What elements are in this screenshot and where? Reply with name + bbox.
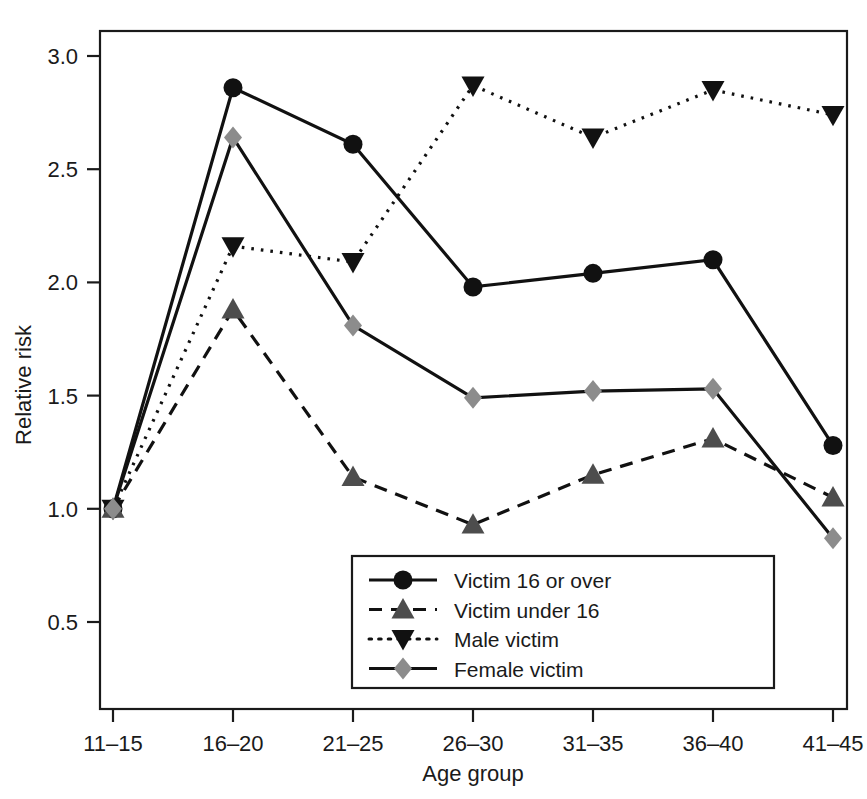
- y-tick-label: 0.5: [47, 610, 78, 635]
- relative-risk-line-chart: 0.51.01.52.02.53.0 11–1516–2021–2526–303…: [0, 0, 867, 799]
- triangle-up-marker: [702, 427, 725, 447]
- chart-figure: 0.51.01.52.02.53.0 11–1516–2021–2526–303…: [0, 0, 867, 799]
- y-axis-ticks: 0.51.01.52.02.53.0: [47, 44, 100, 635]
- y-tick-label: 2.0: [47, 270, 78, 295]
- triangle-up-marker: [222, 298, 245, 318]
- series-line: [113, 138, 833, 539]
- y-tick-label: 2.5: [47, 157, 78, 182]
- x-tick-label: 36–40: [682, 731, 743, 756]
- triangle-down-marker: [822, 106, 845, 126]
- legend-label-3: Female victim: [454, 658, 584, 681]
- x-tick-label: 31–35: [562, 731, 623, 756]
- x-tick-label: 16–20: [202, 731, 263, 756]
- x-tick-label: 21–25: [322, 731, 383, 756]
- x-axis-ticks: 11–1516–2021–2526–3031–3536–4041–45: [83, 709, 863, 756]
- circle-marker: [224, 78, 243, 97]
- diamond-marker: [584, 380, 602, 402]
- circle-marker: [584, 264, 603, 283]
- x-tick-label: 41–45: [802, 731, 863, 756]
- triangle-down-marker: [582, 129, 605, 149]
- legend-label-1: Victim under 16: [454, 599, 600, 622]
- circle-marker: [704, 250, 723, 269]
- series-layer: [102, 76, 845, 549]
- diamond-marker: [464, 387, 482, 409]
- y-tick-label: 1.0: [47, 497, 78, 522]
- series-0: [104, 78, 843, 518]
- circle-marker: [464, 277, 483, 296]
- legend-label-2: Male victim: [454, 628, 559, 651]
- x-axis-title: Age group: [422, 761, 524, 786]
- y-tick-label: 3.0: [47, 44, 78, 69]
- legend-label-0: Victim 16 or over: [454, 569, 611, 592]
- circle-marker: [824, 436, 843, 455]
- triangle-down-marker: [342, 253, 365, 273]
- triangle-down-marker: [462, 76, 485, 96]
- circle-marker: [394, 571, 413, 590]
- chart-legend: Victim 16 or overVictim under 16Male vic…: [352, 556, 774, 688]
- triangle-down-marker: [222, 237, 245, 257]
- series-line: [113, 310, 833, 525]
- triangle-up-marker: [822, 486, 845, 506]
- series-2: [102, 76, 845, 520]
- triangle-up-marker: [342, 466, 365, 486]
- triangle-up-marker: [462, 513, 485, 533]
- x-tick-label: 11–15: [83, 731, 143, 756]
- x-tick-label: 26–30: [442, 731, 503, 756]
- y-tick-label: 1.5: [47, 384, 78, 409]
- circle-marker: [344, 135, 363, 154]
- y-axis-title: Relative risk: [11, 324, 36, 445]
- triangle-down-marker: [702, 81, 725, 101]
